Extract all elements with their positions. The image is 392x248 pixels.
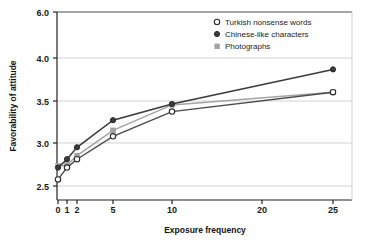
- y-tick-label: 3.5: [36, 97, 49, 107]
- filled-circle-marker: [169, 101, 174, 106]
- x-tick-label: 10: [167, 205, 177, 215]
- chart-svg: 6.0 4.0 3.5 3.0 2.5 0 1 2 5 10 20 25 E: [0, 0, 392, 248]
- legend-item-chinese-like-characters: Chinese-like characters: [225, 30, 309, 39]
- y-tick-label: 4.0: [36, 54, 49, 64]
- filled-circle-marker: [74, 145, 79, 150]
- x-tick-label: 2: [74, 205, 79, 215]
- x-tick-label: 5: [110, 205, 115, 215]
- legend-item-turkish-nonsense-words: Turkish nonsense words: [225, 18, 311, 27]
- legend-item-photographs: Photographs: [225, 42, 270, 51]
- filled-circle-marker: [55, 165, 60, 170]
- y-tick-label: 6.0: [36, 8, 49, 18]
- x-tick-label: 1: [64, 205, 69, 215]
- chart-figure: 6.0 4.0 3.5 3.0 2.5 0 1 2 5 10 20 25 E: [0, 0, 392, 248]
- open-circle-marker: [169, 109, 174, 114]
- filled-circle-marker: [330, 67, 335, 72]
- x-tick-marks: [58, 200, 333, 204]
- filled-circle-marker: [214, 31, 219, 36]
- gray-square-marker: [110, 128, 116, 134]
- open-circle-marker: [330, 90, 335, 95]
- y-axis-title: Favorability of attitude: [8, 60, 18, 151]
- plot-background: [57, 12, 352, 200]
- filled-circle-marker: [110, 118, 115, 123]
- y-tick-label: 3.0: [36, 139, 49, 149]
- open-circle-marker: [74, 157, 79, 162]
- y-tick-labels: 6.0 4.0 3.5 3.0 2.5: [36, 8, 49, 192]
- x-tick-label: 25: [328, 205, 338, 215]
- gray-square-marker: [214, 44, 219, 49]
- open-circle-marker: [214, 19, 219, 24]
- open-circle-marker: [55, 177, 60, 182]
- x-axis-title: Exposure frequency: [164, 225, 246, 235]
- open-circle-marker: [110, 134, 115, 139]
- y-tick-label: 2.5: [36, 182, 49, 192]
- x-tick-label: 0: [55, 205, 60, 215]
- filled-circle-marker: [64, 157, 69, 162]
- open-circle-marker: [64, 165, 69, 170]
- x-tick-labels: 0 1 2 5 10 20 25: [55, 205, 338, 215]
- x-tick-label: 20: [257, 205, 267, 215]
